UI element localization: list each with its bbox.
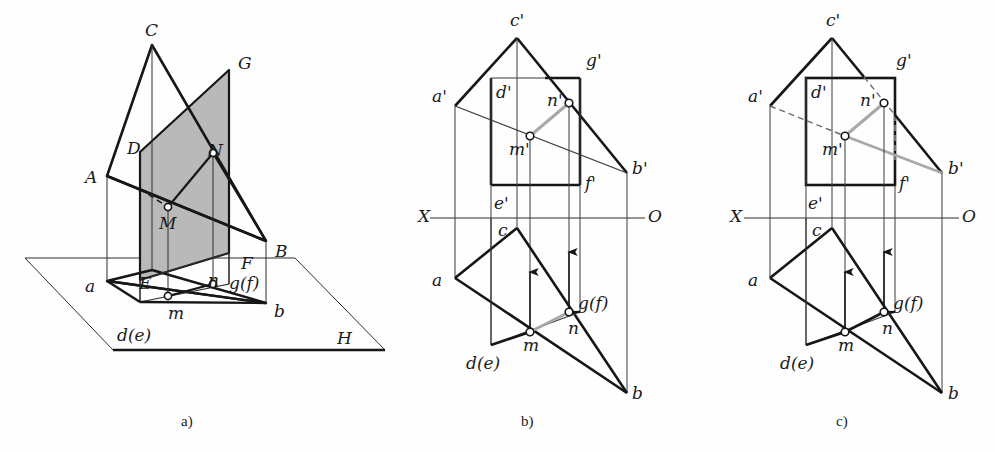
- ground-edge-de-b: [140, 302, 266, 303]
- label-F: F: [241, 255, 253, 272]
- label-de: d(e): [780, 355, 814, 372]
- label-g-prime: g': [896, 52, 912, 69]
- label-b-prime: b': [632, 160, 648, 177]
- label-c: c: [812, 222, 822, 239]
- plane-h: [25, 258, 385, 350]
- label-C: C: [145, 22, 158, 39]
- label-n-prime: n': [860, 92, 876, 109]
- point-n-prime: [565, 99, 573, 107]
- label-B: B: [275, 243, 288, 260]
- label-c: c: [498, 222, 508, 239]
- label-O: O: [962, 208, 976, 225]
- projectors-c-upper: [770, 38, 942, 393]
- label-H: H: [337, 330, 352, 347]
- label-a: a: [432, 272, 442, 289]
- label-M: M: [159, 215, 176, 232]
- label-D: D: [127, 140, 141, 157]
- figure-canvas: CGDNAMBFaEng(f)mbd(e)H c'g'a'd'n'm'b'f'e…: [0, 0, 995, 452]
- point-n: [880, 308, 888, 316]
- edge-cb-prime-c-visible1: [832, 38, 864, 77]
- edge-ac-c-plan: [770, 228, 832, 278]
- label-m-prime: m': [822, 141, 843, 158]
- label-g-prime: g': [586, 52, 602, 69]
- label-n: n: [568, 320, 579, 337]
- label-m-prime: m': [509, 141, 530, 158]
- label-b-prime: b': [948, 160, 964, 177]
- label-n: n: [208, 272, 219, 289]
- label-n-prime: n': [547, 92, 563, 109]
- label-O: O: [648, 208, 662, 225]
- label-G: G: [238, 55, 252, 72]
- label-N: N: [208, 142, 223, 159]
- label-d-prime: d': [496, 84, 512, 101]
- highlight-mn-b-plan: [530, 312, 569, 332]
- label-de: d(e): [117, 327, 151, 344]
- label-a: a: [85, 278, 95, 295]
- label-gf: g(f): [893, 295, 923, 312]
- label-gf: g(f): [229, 275, 259, 292]
- projectors-b-upper: [455, 38, 627, 393]
- label-e-prime: e': [808, 195, 823, 212]
- label-b: b: [274, 303, 285, 320]
- label-c-prime: c': [826, 12, 840, 29]
- plan-segment-mn-c: [845, 312, 884, 332]
- edge-ab-prime-c-hidden: [770, 106, 845, 136]
- label-E: E: [139, 275, 151, 292]
- caption-panel-b: b): [521, 414, 534, 429]
- point-n-prime: [880, 99, 888, 107]
- label-m: m: [168, 305, 184, 322]
- point-n: [565, 308, 573, 316]
- label-a-prime: a': [432, 88, 447, 105]
- label-e-prime: e': [494, 195, 509, 212]
- point-m: [164, 292, 171, 299]
- label-f-prime: f': [899, 175, 910, 192]
- label-A: A: [85, 169, 97, 186]
- label-m: m: [838, 337, 854, 354]
- label-d-prime: d': [811, 84, 827, 101]
- label-a-prime: a': [748, 88, 763, 105]
- label-n: n: [882, 320, 893, 337]
- label-c-prime: c': [510, 12, 524, 29]
- label-b: b: [632, 385, 643, 402]
- label-b: b: [948, 385, 959, 402]
- label-f-prime: f': [585, 175, 596, 192]
- caption-panel-c: c): [836, 414, 848, 429]
- label-X: X: [730, 208, 742, 225]
- panel-a-pictorial: [25, 45, 385, 350]
- label-gf: g(f): [578, 295, 608, 312]
- label-X: X: [418, 208, 430, 225]
- label-a: a: [748, 272, 758, 289]
- label-de: d(e): [466, 355, 500, 372]
- caption-panel-a: a): [181, 414, 193, 429]
- label-m: m: [523, 337, 539, 354]
- point-M: [164, 203, 171, 210]
